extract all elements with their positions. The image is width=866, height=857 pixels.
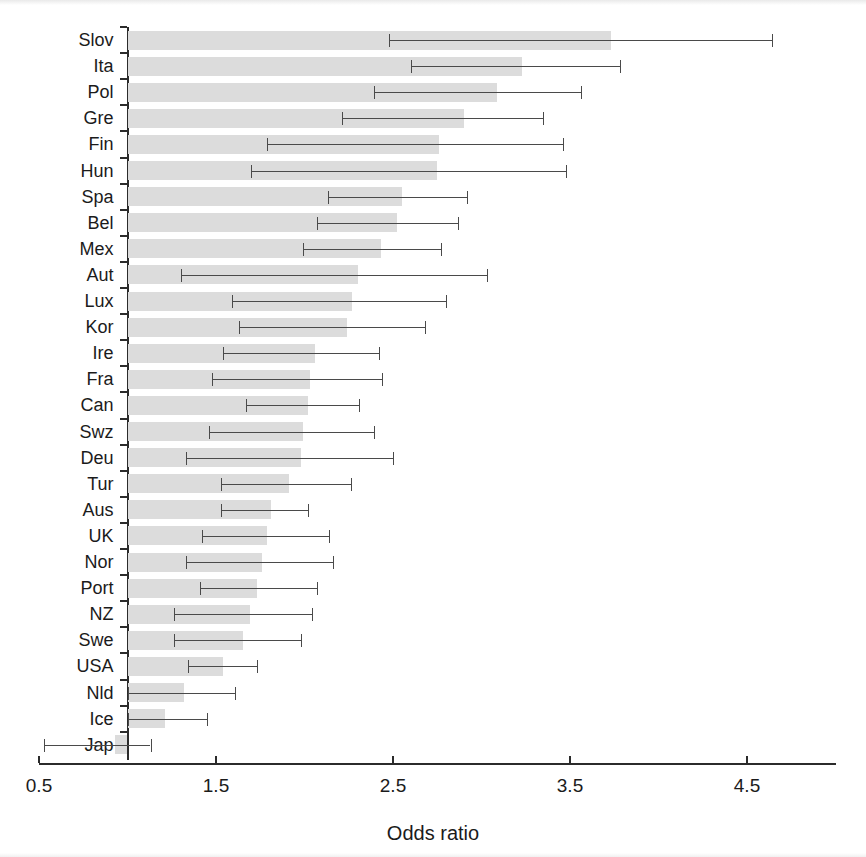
y-axis-label: Bel [0, 214, 114, 232]
confidence-interval-cap-low [202, 530, 203, 543]
y-axis-label: Kor [0, 318, 114, 336]
confidence-interval-cap-low [221, 504, 222, 517]
confidence-interval-line [223, 353, 379, 354]
y-axis-tick [120, 522, 127, 524]
x-axis-tick [569, 756, 571, 763]
y-axis-tick [120, 548, 127, 550]
confidence-interval-line [128, 719, 208, 720]
confidence-interval-cap-high [772, 34, 773, 47]
confidence-interval-cap-high [379, 347, 380, 360]
confidence-interval-cap-high [359, 399, 360, 412]
confidence-interval-cap-low [221, 478, 222, 491]
confidence-interval-cap-high [458, 217, 459, 230]
confidence-interval-line [221, 484, 350, 485]
confidence-interval-line [251, 171, 566, 172]
confidence-interval-line [342, 118, 544, 119]
y-axis-label: Ice [0, 710, 114, 728]
confidence-interval-cap-low [342, 112, 343, 125]
confidence-interval-cap-low [303, 243, 304, 256]
confidence-interval-line [389, 40, 771, 41]
x-axis-tick-label: 2.5 [353, 776, 433, 795]
confidence-interval-line [374, 92, 581, 93]
y-axis-label: Swz [0, 423, 114, 441]
confidence-interval-cap-low [389, 34, 390, 47]
confidence-interval-cap-high [329, 530, 330, 543]
y-axis-label: Can [0, 396, 114, 414]
plot-area: SlovItaPolGreFinHunSpaBelMexAutLuxKorIre… [0, 0, 866, 790]
y-axis-tick [120, 287, 127, 289]
y-axis-label: Spa [0, 188, 114, 206]
confidence-interval-line [188, 666, 257, 667]
y-axis-label: Swe [0, 631, 114, 649]
confidence-interval-line [44, 745, 150, 746]
confidence-interval-cap-high [382, 373, 383, 386]
confidence-interval-cap-high [235, 687, 236, 700]
confidence-interval-cap-high [301, 634, 302, 647]
confidence-interval-line [328, 197, 468, 198]
confidence-interval-cap-low [232, 295, 233, 308]
confidence-interval-cap-low [239, 321, 240, 334]
y-axis-tick [120, 652, 127, 654]
y-axis-label: Deu [0, 449, 114, 467]
y-axis-label: Ire [0, 344, 114, 362]
confidence-interval-cap-high [566, 165, 567, 178]
confidence-interval-cap-low [128, 713, 129, 726]
confidence-interval-line [128, 693, 236, 694]
x-axis-tick-label: 1.5 [176, 776, 256, 795]
confidence-interval-line [186, 562, 333, 563]
x-axis-tick-label: 4.5 [707, 776, 787, 795]
confidence-interval-cap-low [44, 739, 45, 752]
y-axis-tick [120, 78, 127, 80]
confidence-interval-line [174, 640, 301, 641]
confidence-interval-cap-low [212, 373, 213, 386]
confidence-interval-cap-low [188, 660, 189, 673]
confidence-interval-cap-high [543, 112, 544, 125]
confidence-interval-cap-low [411, 60, 412, 73]
x-axis-tick-label: 0.5 [0, 776, 79, 795]
confidence-interval-cap-high [563, 138, 564, 151]
y-axis-label: Aut [0, 266, 114, 284]
y-axis-tick [120, 496, 127, 498]
confidence-interval-cap-high [487, 269, 488, 282]
x-axis-tick-label: 3.5 [530, 776, 610, 795]
y-axis-tick [120, 444, 127, 446]
confidence-interval-cap-low [181, 269, 182, 282]
confidence-interval-cap-low [317, 217, 318, 230]
x-axis-line [39, 763, 836, 765]
y-axis-tick [120, 52, 127, 54]
y-axis-label: Pol [0, 83, 114, 101]
y-axis-label: Aus [0, 501, 114, 519]
y-axis-tick [120, 339, 127, 341]
y-axis-tick [120, 104, 127, 106]
y-axis-label: Gre [0, 109, 114, 127]
confidence-interval-cap-low [223, 347, 224, 360]
y-axis-tick [120, 470, 127, 472]
confidence-interval-cap-high [151, 739, 152, 752]
y-axis-tick [120, 574, 127, 576]
x-axis-tick [215, 756, 217, 763]
y-axis-tick [120, 183, 127, 185]
x-axis-tick [746, 756, 748, 763]
y-axis-label: NZ [0, 605, 114, 623]
y-axis-tick [120, 418, 127, 420]
figure-root: SlovItaPolGreFinHunSpaBelMexAutLuxKorIre… [0, 0, 866, 857]
confidence-interval-cap-high [308, 504, 309, 517]
confidence-interval-cap-high [581, 86, 582, 99]
confidence-interval-cap-low [328, 191, 329, 204]
confidence-interval-cap-high [620, 60, 621, 73]
y-axis-label: Fin [0, 135, 114, 153]
confidence-interval-line [246, 405, 359, 406]
y-axis-tick [120, 626, 127, 628]
confidence-interval-cap-high [257, 660, 258, 673]
y-axis-tick [120, 313, 127, 315]
confidence-interval-line [200, 588, 317, 589]
confidence-interval-line [232, 301, 446, 302]
confidence-interval-cap-high [446, 295, 447, 308]
y-axis-label: USA [0, 657, 114, 675]
confidence-interval-cap-low [186, 556, 187, 569]
y-axis-tick [120, 705, 127, 707]
scan-edge-bottom [0, 853, 866, 857]
y-axis-label: Nld [0, 684, 114, 702]
confidence-interval-line [202, 536, 329, 537]
confidence-interval-cap-high [374, 426, 375, 439]
